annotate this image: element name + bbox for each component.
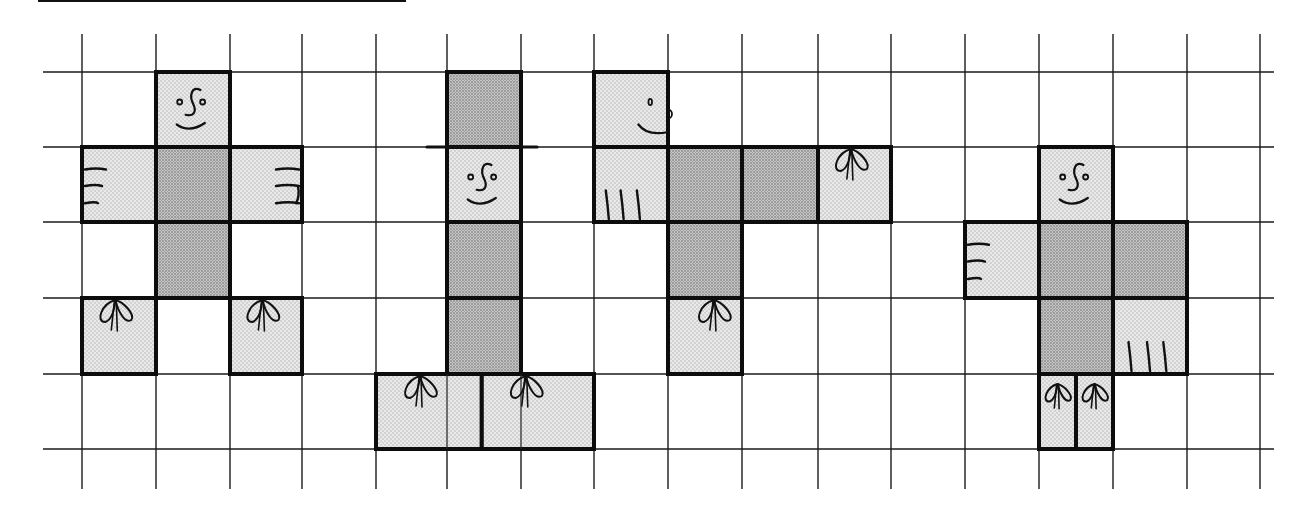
net-face-dark xyxy=(447,222,521,298)
cube-net-diagram xyxy=(0,0,1309,512)
net-face-light xyxy=(376,374,482,449)
net-cells xyxy=(82,72,1187,449)
net-face-light xyxy=(594,147,668,222)
net-face-dark xyxy=(668,147,742,222)
net-face-dark xyxy=(668,222,742,298)
net-face-dark xyxy=(447,298,521,374)
net-face-dark xyxy=(447,72,521,147)
net-face-dark xyxy=(156,147,230,222)
net-face-dark xyxy=(1039,222,1113,298)
net-face-light xyxy=(447,147,521,222)
figure-1-cross-net xyxy=(82,72,302,374)
net-face-dark xyxy=(742,147,818,222)
net-face-light xyxy=(668,298,742,374)
net-face-light xyxy=(1039,147,1113,222)
net-face-dark xyxy=(1113,222,1187,298)
net-face-light xyxy=(594,72,668,147)
net-face-light xyxy=(156,72,230,147)
figure-4-split-feet-net xyxy=(965,147,1187,449)
net-face-dark xyxy=(1039,298,1113,374)
net-face-dark xyxy=(156,222,230,298)
figure-2-hat-net xyxy=(376,72,594,449)
